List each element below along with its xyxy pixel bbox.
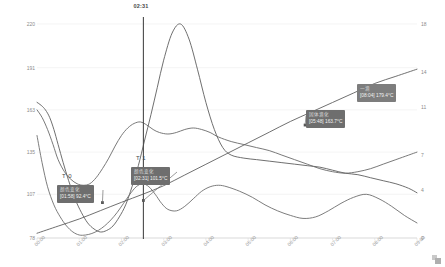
tooltip-t1-line1: 颜色变化 <box>134 169 167 176</box>
tooltip-t0-line2: [01:58] 92.4°C <box>60 194 91 201</box>
annotation-label-t1: T 1 <box>136 155 146 161</box>
right-axis-tick-1: 4 <box>421 187 439 193</box>
tooltip-t1-line2: [02:31] 101.5°C <box>134 176 167 183</box>
right-axis-tick-3: 11 <box>421 104 439 110</box>
chart-container: 78107135163191220 047111418 00:0001:0002… <box>0 0 445 267</box>
tooltip-t0[interactable]: 颜色变化 [01:58] 92.4°C <box>57 185 94 203</box>
left-axis-tick-2: 135 <box>19 149 35 155</box>
left-axis-tick-5: 220 <box>19 21 35 27</box>
tooltip-t1[interactable]: 颜色变化 [02:31] 101.5°C <box>131 167 170 185</box>
series-lines <box>37 24 417 235</box>
axis-lines <box>37 238 417 241</box>
right-axis-tick-2: 7 <box>421 152 439 158</box>
tooltip-peak-line1: 一滴 <box>360 86 393 93</box>
left-axis-tick-4: 191 <box>19 65 35 71</box>
right-axis-tick-4: 14 <box>421 69 439 75</box>
left-axis-tick-0: 78 <box>19 235 35 241</box>
time-cursor-label: 02:31 <box>133 3 148 9</box>
grid-lines <box>37 24 417 238</box>
tooltip-peak[interactable]: 一滴 [08:04] 179.4°C <box>357 84 396 102</box>
tooltip-reaction[interactable]: 固体滴化 [05:48] 163.7°C <box>306 110 345 128</box>
chart-plot-area <box>0 0 445 267</box>
left-axis-tick-3: 163 <box>19 107 35 113</box>
tooltip-leader-lines <box>102 90 368 203</box>
tooltip-peak-line2: [08:04] 179.4°C <box>360 93 393 100</box>
tooltip-reaction-line1: 固体滴化 <box>309 112 342 119</box>
annotation-label-t0: T 0 <box>62 173 72 179</box>
data-point-markers[interactable] <box>101 90 370 204</box>
tooltip-t0-line1: 颜色变化 <box>60 187 91 194</box>
left-axis-tick-1: 107 <box>19 191 35 197</box>
right-axis-tick-5: 18 <box>421 21 439 27</box>
corner-watermark-icon <box>432 255 441 264</box>
tooltip-reaction-line2: [05:48] 163.7°C <box>309 119 342 126</box>
